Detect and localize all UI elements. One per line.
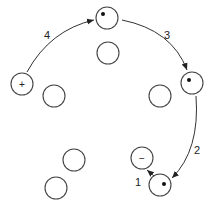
circle-left-mid (43, 85, 65, 107)
circle-bottom-dot (149, 174, 171, 196)
arrow-label-2: 2 (194, 144, 200, 156)
dot-bottom (162, 182, 166, 186)
dot-top (101, 12, 105, 16)
circle-right-mid (149, 85, 171, 107)
diagram-canvas: + − 4 3 2 1 (0, 0, 213, 209)
arrow-1 (147, 170, 154, 176)
dot-right (187, 78, 191, 82)
arrow-4 (27, 20, 94, 72)
circle-upper-center (97, 42, 119, 64)
arrow-3 (122, 20, 187, 70)
circle-lower-left-2 (45, 177, 67, 199)
arrow-label-1: 1 (135, 176, 141, 188)
arrow-label-3: 3 (164, 29, 170, 41)
plus-sign: + (19, 79, 25, 90)
minus-sign: − (139, 153, 145, 164)
circle-right-dot (181, 72, 203, 94)
circle-top (96, 7, 118, 29)
arrow-label-4: 4 (44, 29, 50, 41)
circle-lower-left-1 (63, 149, 85, 171)
arrow-2 (172, 96, 197, 178)
